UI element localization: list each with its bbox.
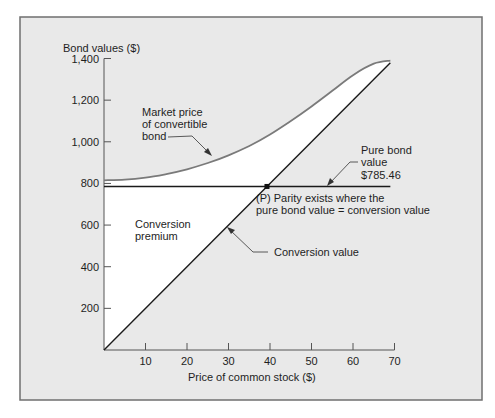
y-tick-label: 1,400 — [71, 53, 99, 65]
y-tick-label: 1,000 — [71, 136, 99, 148]
svg-text:value: value — [361, 156, 387, 168]
x-tick-label: 30 — [222, 355, 234, 367]
y-axis-label: Bond values ($) — [63, 42, 140, 54]
svg-text:premium: premium — [135, 230, 178, 242]
x-tick-label: 50 — [305, 355, 317, 367]
y-tick-label: 600 — [81, 219, 99, 231]
svg-text:(P) Parity exists where the: (P) Parity exists where the — [256, 192, 384, 204]
x-axis-label: Price of common stock ($) — [188, 371, 316, 383]
svg-text:bond: bond — [142, 130, 166, 142]
y-tick-label: 200 — [81, 302, 99, 314]
x-tick-label: 60 — [347, 355, 359, 367]
svg-text:pure bond value = conversion v: pure bond value = conversion value — [256, 204, 430, 216]
y-tick-label: 400 — [81, 261, 99, 273]
chart: 2004006008001,0001,2001,4001020304050607… — [0, 0, 495, 418]
parity-point-marker — [264, 184, 269, 189]
svg-text:Conversion: Conversion — [135, 218, 191, 230]
svg-text:Conversion value: Conversion value — [274, 246, 359, 258]
x-tick-label: 70 — [388, 355, 400, 367]
y-tick-label: 1,200 — [71, 94, 99, 106]
svg-text:Market price: Market price — [142, 106, 203, 118]
svg-text:of convertible: of convertible — [142, 118, 207, 130]
svg-text:Pure bond: Pure bond — [361, 144, 412, 156]
x-tick-label: 20 — [181, 355, 193, 367]
x-tick-label: 40 — [264, 355, 276, 367]
x-tick-label: 10 — [139, 355, 151, 367]
svg-text:$785.46: $785.46 — [361, 169, 401, 181]
y-tick-label: 800 — [81, 177, 99, 189]
